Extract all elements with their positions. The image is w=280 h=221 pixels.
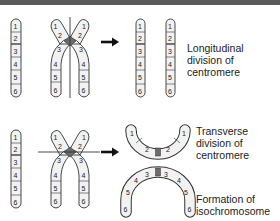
svg-text:4: 4: [82, 61, 86, 68]
svg-text:2: 2: [14, 146, 18, 153]
label-line: isochromosome: [196, 205, 270, 217]
svg-text:4: 4: [14, 172, 18, 179]
x-chromosome-bottom: 1 1 2 2 3 3 4 4 5 5 6 6: [38, 130, 100, 208]
svg-text:6: 6: [124, 206, 128, 213]
label-line: division of: [196, 137, 249, 149]
right-arrow-icon: [101, 38, 119, 47]
svg-text:5: 5: [14, 185, 18, 192]
chromosome-bottom-left: 1 2 3 4 5 6: [11, 130, 21, 208]
svg-text:1: 1: [130, 130, 134, 137]
svg-text:5: 5: [126, 189, 130, 196]
separated-chromatid-1: 1 2 3 4 5 6: [136, 19, 145, 97]
label-longitudinal: Longitudinal division of centromere: [187, 42, 244, 78]
svg-text:6: 6: [82, 198, 86, 205]
svg-text:5: 5: [138, 74, 142, 81]
label-transverse: Transverse division of centromere: [196, 125, 249, 161]
svg-text:1: 1: [54, 23, 58, 30]
svg-text:3: 3: [14, 159, 18, 166]
isochromosome-arc: 6 6 5 5 4 4 3 3: [124, 168, 192, 213]
label-line: Formation of: [196, 193, 270, 205]
chromosome-top-left: 1 2 3 4 5 6: [11, 19, 21, 97]
svg-text:5: 5: [82, 74, 86, 81]
svg-text:3: 3: [79, 46, 83, 53]
svg-text:1: 1: [82, 23, 86, 30]
svg-text:2: 2: [166, 146, 170, 153]
svg-text:3: 3: [168, 48, 172, 55]
label-isochromosome: Formation of isochromosome: [196, 193, 270, 217]
svg-text:1: 1: [54, 134, 58, 141]
svg-text:4: 4: [138, 61, 142, 68]
right-arrow-icon: [101, 148, 119, 157]
svg-text:2: 2: [14, 35, 18, 42]
svg-text:3: 3: [57, 157, 61, 164]
svg-text:1: 1: [138, 23, 142, 30]
chromosome-diagram: 1 2 3 4 5 6 1 1 2 2 3 3 4 4 5 5 6 6: [0, 0, 280, 221]
x-chromosome-top: 1 1 2 2 3 3 4 4 5 5 6 6: [51, 17, 89, 98]
svg-text:6: 6: [82, 87, 86, 94]
svg-text:2: 2: [138, 35, 142, 42]
label-line: centromere: [196, 149, 249, 161]
svg-text:1: 1: [182, 130, 186, 137]
svg-text:6: 6: [54, 87, 58, 94]
svg-text:2: 2: [78, 32, 82, 39]
svg-text:4: 4: [177, 177, 181, 184]
svg-text:1: 1: [14, 23, 18, 30]
svg-text:4: 4: [82, 172, 86, 179]
label-line: division of: [187, 54, 244, 66]
svg-text:6: 6: [168, 88, 172, 95]
svg-text:2: 2: [58, 32, 62, 39]
svg-text:2: 2: [78, 143, 82, 150]
svg-text:5: 5: [184, 189, 188, 196]
svg-text:5: 5: [14, 74, 18, 81]
svg-text:4: 4: [14, 61, 18, 68]
svg-text:6: 6: [14, 88, 18, 95]
svg-text:2: 2: [168, 35, 172, 42]
separated-chromatid-2: 1 2 3 4 5 6: [166, 19, 175, 97]
svg-text:5: 5: [82, 185, 86, 192]
label-line: Longitudinal: [187, 42, 244, 54]
label-line: centromere: [187, 66, 244, 78]
svg-text:2: 2: [145, 146, 149, 153]
svg-text:5: 5: [168, 74, 172, 81]
svg-text:3: 3: [57, 46, 61, 53]
svg-text:4: 4: [54, 61, 58, 68]
svg-text:4: 4: [134, 177, 138, 184]
svg-text:1: 1: [82, 134, 86, 141]
label-line: Transverse: [196, 125, 249, 137]
svg-text:6: 6: [188, 206, 192, 213]
svg-text:4: 4: [54, 172, 58, 179]
svg-text:5: 5: [54, 185, 58, 192]
svg-text:6: 6: [54, 198, 58, 205]
svg-text:3: 3: [164, 171, 168, 178]
svg-text:3: 3: [79, 157, 83, 164]
svg-text:4: 4: [168, 61, 172, 68]
svg-text:3: 3: [145, 171, 149, 178]
svg-text:1: 1: [14, 134, 18, 141]
svg-text:5: 5: [54, 74, 58, 81]
svg-text:6: 6: [14, 199, 18, 206]
svg-text:2: 2: [58, 143, 62, 150]
svg-text:1: 1: [168, 23, 172, 30]
u-arc-chromosome: 1 1 2 2: [130, 130, 186, 156]
svg-text:6: 6: [138, 88, 142, 95]
svg-text:3: 3: [14, 48, 18, 55]
svg-text:3: 3: [138, 48, 142, 55]
